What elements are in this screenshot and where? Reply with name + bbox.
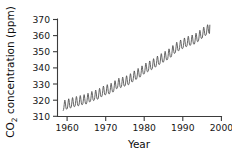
y-tick-labels: 370 360 350 340 330 320 310 xyxy=(32,14,50,122)
x-tick-label-1970: 1970 xyxy=(94,122,118,133)
y-tick-label-340: 340 xyxy=(32,62,50,73)
x-tick-label-1960: 1960 xyxy=(55,122,79,133)
y-tick-label-370: 370 xyxy=(32,14,50,25)
y-tick-label-360: 360 xyxy=(32,30,50,41)
axis-spine xyxy=(58,19,222,117)
y-tick-marks xyxy=(53,20,58,117)
chart-canvas: CO2 concentration (ppm) 370 360 350 340 … xyxy=(0,0,232,154)
y-axis-title: CO2 concentration (ppm) xyxy=(4,6,19,137)
x-tick-label-1980: 1980 xyxy=(133,122,157,133)
co2-data-line xyxy=(63,25,210,111)
x-tick-marks xyxy=(67,117,221,122)
x-axis-title: Year xyxy=(127,138,151,150)
co2-keeling-curve-figure: CO2 concentration (ppm) 370 360 350 340 … xyxy=(0,0,232,154)
x-tick-labels: 1960 1970 1980 1990 2000 xyxy=(55,122,232,133)
x-tick-label-1990: 1990 xyxy=(171,122,195,133)
y-axis-title-suffix: concentration (ppm) xyxy=(4,6,16,117)
y-tick-label-310: 310 xyxy=(32,111,50,122)
y-tick-label-330: 330 xyxy=(32,79,50,90)
x-tick-label-2000: 2000 xyxy=(210,122,232,133)
y-axis-title-prefix: CO xyxy=(4,122,16,138)
y-tick-label-350: 350 xyxy=(32,46,50,57)
y-tick-label-320: 320 xyxy=(32,95,50,106)
